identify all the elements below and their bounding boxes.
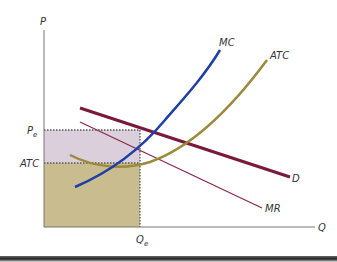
x-axis-label: Q — [318, 222, 326, 233]
bottom-border — [0, 256, 337, 262]
mc-label: MC — [219, 37, 235, 48]
y-axis-label: P — [40, 16, 47, 27]
pe-label: Pe — [27, 125, 37, 139]
total-cost-region — [44, 163, 140, 227]
monopoly-profit-chart: P Q Pe ATC Qe MC ATC D MR — [0, 0, 337, 262]
atc-tick-label: ATC — [19, 158, 39, 169]
d-label: D — [292, 173, 300, 184]
qe-label: Qe — [136, 234, 148, 248]
mr-label: MR — [265, 203, 281, 214]
atc-curve-label: ATC — [269, 50, 289, 61]
